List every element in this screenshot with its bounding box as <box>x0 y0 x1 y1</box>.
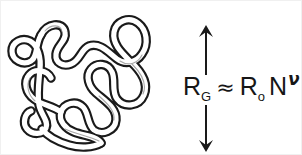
approx-equal-operator: ≈ <box>216 75 234 100</box>
nu-exponent-letter: ν <box>288 69 300 89</box>
r0-base-letter: R <box>240 72 258 100</box>
polymer-chain-tube-outer <box>12 20 146 147</box>
polymer-chain-svg <box>1 1 183 155</box>
rg-base-letter: R <box>183 72 201 100</box>
figure-root: RG ≈ Ro Nν <box>0 0 302 155</box>
prefactor-term: Ro <box>240 74 265 103</box>
arrow-up-icon <box>191 23 221 75</box>
rg-subscript-letter: G <box>201 89 211 104</box>
monomer-count-term: Nν <box>269 74 299 102</box>
n-base-letter: N <box>269 72 287 100</box>
radius-of-gyration-term: RG <box>183 74 211 103</box>
r0-subscript-letter: o <box>258 89 265 104</box>
polymer-coil-illustration <box>1 1 183 155</box>
annotation-column: RG ≈ Ro Nν <box>183 1 302 155</box>
arrow-down-icon <box>191 105 221 153</box>
formula-expression: RG ≈ Ro Nν <box>183 69 302 107</box>
